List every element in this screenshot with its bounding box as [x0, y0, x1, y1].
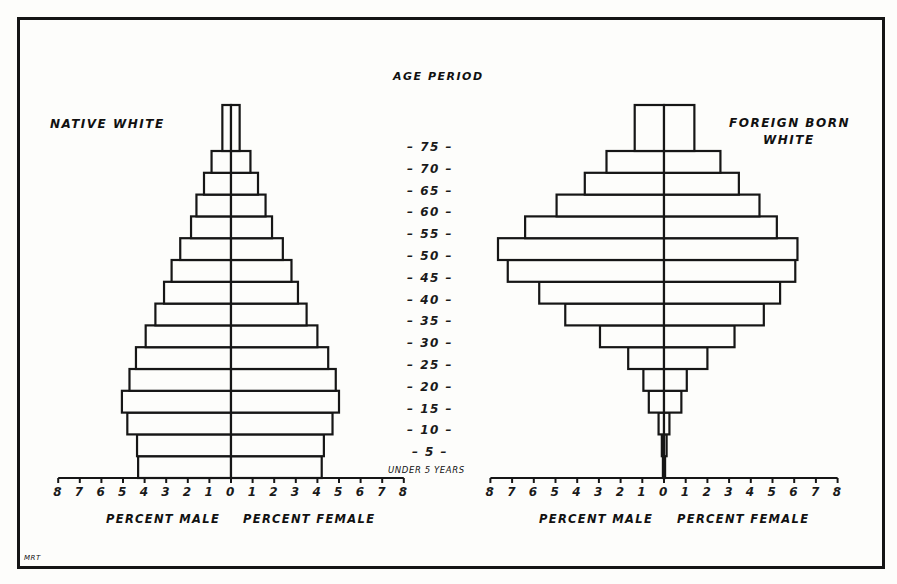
foreign-x-tick-label: 5 — [551, 485, 561, 499]
native-x-tick-label: 5 — [118, 485, 128, 499]
foreign-female-bar — [664, 347, 707, 369]
native-male-bar — [212, 151, 231, 173]
foreign-x-tick-label: 1 — [681, 485, 691, 499]
native-male-bar — [164, 282, 231, 304]
native-female-bar — [231, 456, 322, 478]
foreign-x-tick-label: 5 — [768, 485, 778, 499]
age-tick-label: – 50 – — [407, 249, 453, 263]
age-tick-label: – 55 – — [407, 227, 453, 241]
native-male-bar — [136, 347, 231, 369]
foreign-female-bar — [664, 173, 739, 195]
foreign-x-tick-label: 0 — [659, 485, 669, 499]
native-male-bar — [222, 105, 231, 151]
age-tick-label: – 70 – — [407, 162, 453, 176]
foreign-x-tick-label: 7 — [811, 485, 821, 499]
foreign-male-bar — [585, 173, 664, 195]
foreign-male-bar — [557, 195, 664, 217]
foreign-x-tick-label: 2 — [616, 485, 626, 499]
foreign-female-bar — [664, 369, 687, 391]
foreign-male-bar — [628, 347, 664, 369]
native-male-bar — [196, 195, 231, 217]
foreign-male-bar — [600, 325, 664, 347]
age-tick-label: – 20 – — [407, 380, 453, 394]
foreign-female-bar — [664, 304, 764, 326]
native-x-tick-label: 7 — [75, 485, 85, 499]
foreign-female-bar — [664, 260, 795, 282]
foreign-x-tick-label: 4 — [571, 485, 582, 499]
foreign-x-tick-label: 4 — [745, 485, 756, 499]
age-tick-label: – 15 – — [407, 402, 453, 416]
foreign-female-bar — [664, 216, 777, 238]
foreign-x-tick-label: 7 — [507, 485, 517, 499]
native-x-tick-label: 7 — [377, 485, 387, 499]
native-female-bar — [231, 260, 291, 282]
foreign-female-bar — [664, 282, 780, 304]
foreign-x-tick-label: 3 — [724, 485, 734, 499]
foreign-male-bar — [606, 151, 664, 173]
native-male-bar — [137, 434, 231, 456]
native-male-bar — [191, 216, 231, 238]
native-male-bar — [155, 304, 231, 326]
native-x-tick-label: 4 — [311, 485, 322, 499]
age-tick-label: – 35 – — [407, 314, 453, 328]
native-female-bar — [231, 173, 258, 195]
native-male-bar — [172, 260, 231, 282]
foreign-female-bar — [664, 195, 759, 217]
native-male-bar — [180, 238, 231, 260]
foreign-female-bar — [664, 391, 681, 413]
native-male-bar — [127, 413, 231, 435]
native-x-tick-label: 6 — [356, 485, 366, 499]
right-x-label-male: PERCENT MALE — [539, 512, 653, 526]
native-x-tick-label: 1 — [204, 485, 214, 499]
foreign-female-bar — [664, 325, 735, 347]
foreign-x-tick-label: 1 — [637, 485, 647, 499]
native-x-tick-label: 8 — [399, 485, 409, 499]
native-x-tick-label: 2 — [183, 485, 193, 499]
native-white-title: NATIVE WHITE — [50, 117, 165, 131]
age-tick-label: – 75 – — [407, 140, 453, 154]
native-male-bar — [138, 456, 231, 478]
native-x-tick-label: 4 — [139, 485, 150, 499]
foreign-x-tick-label: 6 — [529, 485, 539, 499]
age-tick-label: – 60 – — [407, 205, 453, 219]
native-x-tick-label: 3 — [291, 485, 301, 499]
native-female-bar — [231, 325, 317, 347]
native-male-bar — [204, 173, 231, 195]
foreign-male-bar — [565, 304, 664, 326]
native-female-bar — [231, 413, 333, 435]
foreign-born-title-line2: WHITE — [763, 133, 815, 147]
native-x-tick-label: 5 — [334, 485, 344, 499]
population-pyramids: 8765432101234567887654321012345678– 75 –… — [0, 0, 897, 584]
native-female-bar — [231, 434, 324, 456]
foreign-male-bar — [649, 391, 664, 413]
foreign-x-tick-label: 3 — [594, 485, 604, 499]
foreign-female-bar — [664, 105, 694, 151]
age-period-title: AGE PERIOD — [393, 70, 484, 83]
native-male-bar — [146, 325, 231, 347]
signature: MRT — [24, 554, 41, 562]
native-x-tick-label: 2 — [269, 485, 279, 499]
foreign-born-title-line1: FOREIGN BORN — [729, 116, 850, 130]
age-tick-label: – 45 – — [407, 271, 453, 285]
age-tick-label: – 65 – — [407, 184, 453, 198]
left-x-label-female: PERCENT FEMALE — [243, 512, 375, 526]
native-female-bar — [231, 282, 298, 304]
age-tick-label: – 40 – — [407, 293, 453, 307]
native-x-tick-label: 6 — [96, 485, 106, 499]
age-tick-label: – 5 – — [412, 445, 448, 459]
under-5-label: UNDER 5 YEARS — [388, 465, 465, 475]
foreign-x-tick-label: 6 — [789, 485, 799, 499]
foreign-female-bar — [664, 238, 797, 260]
foreign-male-bar — [539, 282, 664, 304]
foreign-male-bar — [643, 369, 664, 391]
native-female-bar — [231, 195, 266, 217]
native-female-bar — [231, 238, 283, 260]
native-male-bar — [122, 391, 231, 413]
native-female-bar — [231, 347, 328, 369]
age-tick-label: – 10 – — [407, 423, 453, 437]
native-female-bar — [231, 216, 272, 238]
foreign-male-bar — [498, 238, 664, 260]
native-female-bar — [231, 304, 307, 326]
foreign-x-tick-label: 2 — [702, 485, 712, 499]
native-male-bar — [129, 369, 231, 391]
